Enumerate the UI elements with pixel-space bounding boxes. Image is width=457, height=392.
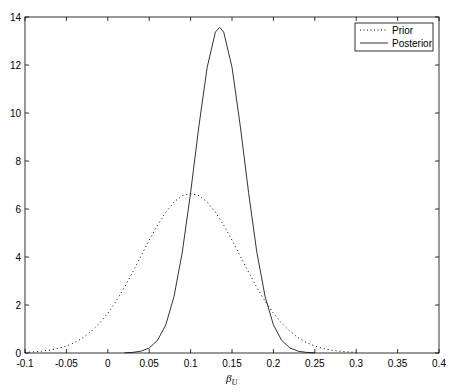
y-tick-label: 0 <box>15 348 21 359</box>
y-tick-label: 12 <box>10 60 22 71</box>
y-tick-label: 6 <box>15 204 21 215</box>
x-tick-label: -0.1 <box>16 358 34 369</box>
x-tick-label: 0.3 <box>349 358 363 369</box>
x-axis-label-sub: U <box>231 378 238 387</box>
x-tick-label: 0.4 <box>432 358 446 369</box>
x-axis-label: βU <box>225 372 238 387</box>
y-tick-label: 4 <box>15 252 21 263</box>
x-tick-label: 0.35 <box>388 358 408 369</box>
x-tick-label: 0.05 <box>139 358 159 369</box>
y-tick-label: 2 <box>15 300 21 311</box>
x-tick-label: 0.25 <box>305 358 325 369</box>
y-tick-label: 8 <box>15 156 21 167</box>
x-tick-label: 0.1 <box>184 358 198 369</box>
y-tick-label: 10 <box>10 108 22 119</box>
legend-prior-label: Prior <box>392 25 414 36</box>
x-tick-label: -0.05 <box>55 358 78 369</box>
density-chart: -0.1-0.0500.050.10.150.20.250.30.350.402… <box>0 0 457 392</box>
legend: Prior Posterior <box>355 23 433 51</box>
x-tick-label: 0.2 <box>266 358 280 369</box>
x-tick-label: 0.15 <box>222 358 242 369</box>
x-tick-label: 0 <box>105 358 111 369</box>
y-tick-label: 14 <box>10 12 22 23</box>
legend-posterior-label: Posterior <box>392 38 433 49</box>
